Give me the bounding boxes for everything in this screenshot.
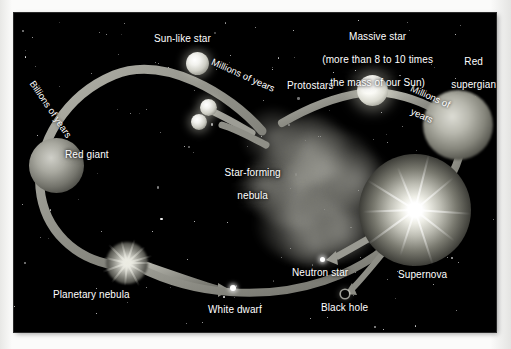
diagram-plate: Sun-like star Billions of years Millions… bbox=[14, 13, 496, 332]
label-red-supergiant: Red supergiant bbox=[434, 44, 496, 102]
label-red-giant: Red giant bbox=[65, 149, 109, 161]
label-star-forming-nebula: Star-forming nebula bbox=[199, 155, 289, 213]
massive-star-line3: the mass of our Sun) bbox=[330, 77, 425, 88]
massive-star-line2: (more than 8 to 10 times bbox=[322, 54, 433, 65]
neutron-star-arrowhead bbox=[326, 251, 338, 265]
label-black-hole: Black hole bbox=[321, 302, 368, 314]
neutron-star-dot bbox=[320, 257, 325, 262]
supergiant-to-supernova bbox=[430, 153, 460, 203]
white-dwarf-dot bbox=[230, 285, 236, 291]
millions-years-right-line2: years bbox=[409, 105, 435, 124]
black-hole-dot bbox=[341, 290, 349, 298]
red-supergiant-line2: supergiant bbox=[451, 79, 496, 90]
red-supergiant-line1: Red bbox=[464, 56, 483, 67]
label-planetary-nebula: Planetary nebula bbox=[53, 289, 130, 301]
label-massive-star: Massive star (more than 8 to 10 times th… bbox=[289, 19, 449, 100]
label-white-dwarf: White dwarf bbox=[208, 304, 262, 316]
star-forming-nebula-line2: nebula bbox=[237, 190, 268, 201]
star-forming-nebula-line1: Star-forming bbox=[225, 167, 281, 178]
stellar-life-cycle-figure: Sun-like star Billions of years Millions… bbox=[0, 0, 511, 349]
label-neutron-star: Neutron star bbox=[292, 267, 348, 279]
label-sun-like-star: Sun-like star bbox=[154, 33, 211, 45]
massive-star-line1: Massive star bbox=[349, 31, 406, 42]
label-supernova: Supernova bbox=[398, 269, 447, 281]
